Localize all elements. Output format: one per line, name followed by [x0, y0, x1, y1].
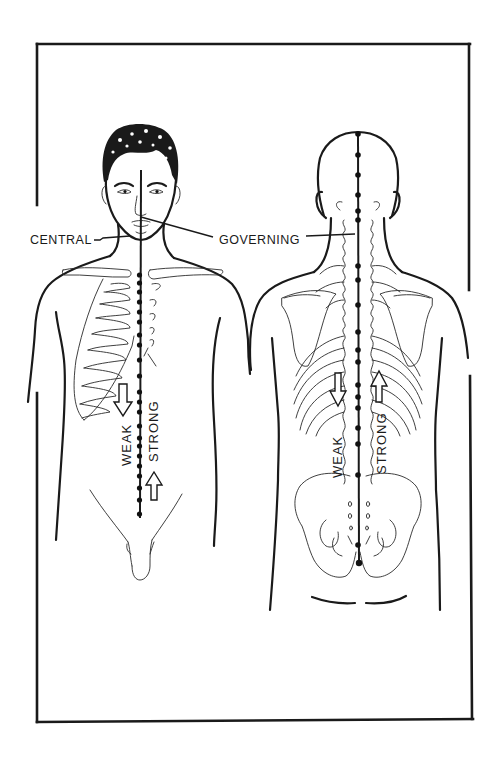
back-figure: WEAK STRONG [250, 131, 468, 610]
back-strong-label: STRONG [374, 412, 389, 474]
weak-arrow-down-icon [114, 384, 132, 416]
front-weak-label: WEAK [119, 424, 134, 466]
frame [37, 44, 473, 722]
governing-label: GOVERNING [219, 233, 300, 247]
meridian-illustration: WEAK STRONG [0, 0, 498, 761]
central-leader-line [94, 236, 130, 240]
central-label: CENTRAL [30, 233, 92, 247]
governing-leader-front [141, 217, 213, 237]
callouts: CENTRAL GOVERNING [30, 217, 355, 247]
scapulae [282, 291, 432, 367]
strong-arrow-up-icon [146, 472, 162, 500]
front-strong-label: STRONG [146, 400, 161, 462]
back-weak-label: WEAK [330, 436, 345, 478]
front-figure: WEAK STRONG [28, 124, 250, 580]
